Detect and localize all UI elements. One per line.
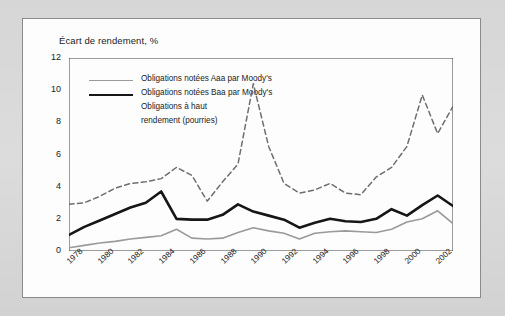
y-axis-tick-label: 2 (39, 213, 61, 223)
figure-background: Écart de rendement, % Obligations notées… (0, 0, 505, 316)
chart-title: Écart de rendement, % (59, 35, 158, 46)
series-line-2 (69, 84, 453, 205)
x-axis-tick-label: 1978 (65, 247, 85, 266)
plot-area: 0246810121978198019821984198619881990199… (69, 58, 453, 251)
series-line-1 (69, 191, 453, 234)
y-axis-tick-label: 6 (39, 149, 61, 159)
chart-panel: Écart de rendement, % Obligations notées… (22, 18, 481, 298)
plot-svg (69, 58, 453, 251)
y-axis-tick-label: 4 (39, 181, 61, 191)
y-axis-tick-label: 8 (39, 116, 61, 126)
y-axis-tick-label: 10 (39, 84, 61, 94)
y-axis-tick-label: 12 (39, 52, 61, 62)
y-axis-tick-label: 0 (39, 245, 61, 255)
series-line-0 (69, 211, 453, 248)
